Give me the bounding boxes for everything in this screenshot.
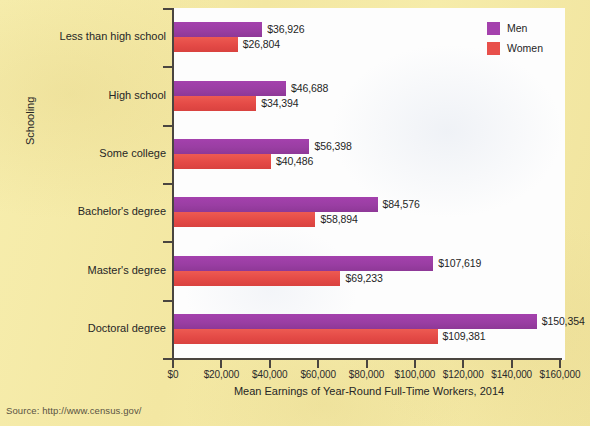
- bar-value-label: $69,233: [345, 272, 382, 284]
- bar-value-label: $34,394: [261, 97, 298, 109]
- bar-value-label: $58,894: [320, 213, 357, 225]
- y-axis-tick: [163, 8, 173, 10]
- y-axis-tick: [163, 358, 173, 360]
- bar-value-label: $40,486: [276, 155, 313, 167]
- y-axis-tick: [163, 241, 173, 243]
- legend-label-men: Men: [507, 22, 527, 34]
- legend-swatch-women-icon: [487, 42, 500, 55]
- x-axis-tick: [220, 360, 222, 368]
- bar-men: [173, 139, 309, 154]
- y-axis-title: Schooling: [24, 97, 36, 145]
- x-axis-tick-label: $160,000: [540, 369, 581, 380]
- bar-women: [173, 37, 238, 52]
- x-axis-tick-label: $100,000: [394, 369, 435, 380]
- x-axis-tick: [366, 360, 368, 368]
- bar-value-label: $150,354: [542, 315, 585, 327]
- category-label: Bachelor's degree: [78, 205, 166, 217]
- x-axis-tick: [172, 360, 174, 368]
- bar-value-label: $84,576: [383, 198, 420, 210]
- bar-women: [173, 96, 256, 111]
- category-label: Less than high school: [60, 30, 166, 42]
- x-axis-tick: [559, 360, 561, 368]
- x-axis-tick-label: $20,000: [204, 369, 239, 380]
- legend-item-men: Men: [487, 18, 543, 38]
- x-axis-tick: [317, 360, 319, 368]
- bar-value-label: $46,688: [291, 82, 328, 94]
- category-label: Some college: [99, 147, 166, 159]
- bar-chart-figure: $36,926$26,804$46,688$34,394$56,398$40,4…: [0, 0, 590, 426]
- bar-men: [173, 22, 262, 37]
- legend-label-women: Women: [507, 42, 543, 54]
- bar-value-label: $26,804: [243, 38, 280, 50]
- bar-value-label: $107,619: [438, 257, 481, 269]
- x-axis-tick-label: $0: [168, 369, 179, 380]
- bar-women: [173, 271, 340, 286]
- bar-women: [173, 212, 315, 227]
- plot-area: [173, 8, 565, 360]
- bar-men: [173, 256, 433, 271]
- bar-value-label: $109,381: [443, 330, 486, 342]
- category-label: High school: [109, 89, 166, 101]
- legend-swatch-men-icon: [487, 22, 500, 35]
- bar-value-label: $36,926: [267, 23, 304, 35]
- y-axis-tick: [163, 66, 173, 68]
- x-axis-tick: [269, 360, 271, 368]
- x-axis-tick-label: $60,000: [300, 369, 335, 380]
- y-axis-tick: [163, 300, 173, 302]
- chart-legend: Men Women: [487, 18, 543, 58]
- bar-value-label: $56,398: [314, 140, 351, 152]
- x-axis-tick: [462, 360, 464, 368]
- x-axis-title: Mean Earnings of Year-Round Full-Time Wo…: [173, 385, 565, 397]
- category-label: Doctoral degree: [88, 322, 166, 334]
- y-axis-tick: [163, 125, 173, 127]
- bar-women: [173, 329, 438, 344]
- legend-item-women: Women: [487, 38, 543, 58]
- x-axis-tick-label: $40,000: [252, 369, 287, 380]
- bar-women: [173, 154, 271, 169]
- y-axis-tick: [163, 183, 173, 185]
- x-axis-tick-label: $80,000: [349, 369, 384, 380]
- bar-men: [173, 314, 537, 329]
- x-axis-tick: [511, 360, 513, 368]
- x-axis-tick-label: $120,000: [443, 369, 484, 380]
- x-axis-tick: [414, 360, 416, 368]
- source-note: Source: http://www.census.gov/: [6, 405, 142, 416]
- bar-men: [173, 197, 378, 212]
- x-axis-tick-label: $140,000: [491, 369, 532, 380]
- bar-men: [173, 81, 286, 96]
- category-label: Master's degree: [87, 264, 166, 276]
